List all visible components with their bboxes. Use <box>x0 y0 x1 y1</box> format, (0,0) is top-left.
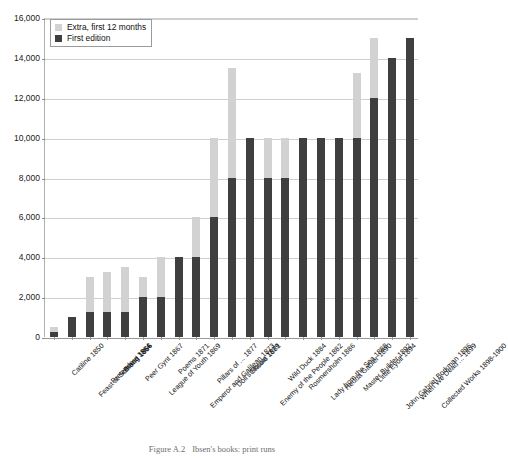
bar-segment-extra <box>103 272 111 312</box>
bar-segment-extra <box>281 138 289 178</box>
bar-segment-extra <box>139 277 147 297</box>
y-tick-label-4000: 4,000 <box>0 253 40 262</box>
legend-item-first-edition: First edition <box>55 34 146 42</box>
bar-slot[interactable] <box>294 19 312 337</box>
bar-slot[interactable] <box>45 19 63 337</box>
x-axis-label: Collected Works 1898-1900 <box>440 342 508 410</box>
bar-segment-extra <box>370 38 378 98</box>
y-tick-label-8000: 8,000 <box>0 174 40 183</box>
y-tick-label-12000: 12,000 <box>0 94 40 103</box>
bar-stack[interactable] <box>86 277 94 337</box>
bar-slot[interactable] <box>116 19 134 337</box>
bar-slot[interactable] <box>187 19 205 337</box>
legend-swatch-extra-icon <box>55 24 62 31</box>
bar-segment-first-edition <box>103 312 111 337</box>
bar-stack[interactable] <box>157 257 165 337</box>
bar-slot[interactable] <box>241 19 259 337</box>
bar-segment-first-edition <box>121 312 129 337</box>
bar-segment-first-edition <box>68 317 76 337</box>
legend-label-extra: Extra, first 12 months <box>67 23 146 31</box>
x-axis-label: Brand 1866 <box>122 342 153 373</box>
bar-slot[interactable] <box>312 19 330 337</box>
bar-segment-extra <box>121 267 129 312</box>
y-tick-label-14000: 14,000 <box>0 54 40 63</box>
bar-stack[interactable] <box>175 257 183 337</box>
bar-segment-first-edition <box>228 178 236 338</box>
bar-stack[interactable] <box>317 138 325 337</box>
legend-item-extra: Extra, first 12 months <box>55 23 146 31</box>
bar-slot[interactable] <box>401 19 419 337</box>
bar-slot[interactable] <box>366 19 384 337</box>
y-tick-mark-0 <box>42 338 45 339</box>
bars-group <box>45 19 418 337</box>
figure-caption: Figure A.2Ibsen's books: print runs <box>0 444 424 454</box>
bar-segment-first-edition <box>370 98 378 337</box>
bar-segment-first-edition <box>210 217 218 337</box>
bar-slot[interactable] <box>259 19 277 337</box>
bar-segment-first-edition <box>353 138 361 337</box>
bar-segment-first-edition <box>406 38 414 337</box>
bar-stack[interactable] <box>388 58 396 337</box>
y-tick-label-0: 0 <box>0 333 40 342</box>
bar-stack[interactable] <box>370 38 378 337</box>
bar-segment-first-edition <box>139 297 147 337</box>
bar-segment-extra <box>86 277 94 312</box>
bar-stack[interactable] <box>192 217 200 337</box>
bar-stack[interactable] <box>281 138 289 337</box>
y-tick-label-6000: 6,000 <box>0 213 40 222</box>
bar-stack[interactable] <box>103 272 111 337</box>
bar-stack[interactable] <box>299 138 307 337</box>
bar-slot[interactable] <box>63 19 81 337</box>
bar-segment-extra <box>157 257 165 297</box>
bar-segment-first-edition <box>299 138 307 337</box>
legend-swatch-first-edition-icon <box>55 35 62 42</box>
y-tick-label-10000: 10,000 <box>0 134 40 143</box>
bar-segment-first-edition <box>246 138 254 337</box>
bar-slot[interactable] <box>170 19 188 337</box>
bar-slot[interactable] <box>383 19 401 337</box>
bar-segment-first-edition <box>175 257 183 337</box>
figure-caption-text: Ibsen's books: print runs <box>192 444 275 454</box>
bar-stack[interactable] <box>246 138 254 337</box>
bar-slot[interactable] <box>205 19 223 337</box>
bar-segment-first-edition <box>157 297 165 337</box>
bar-slot[interactable] <box>81 19 99 337</box>
x-axis-label: Catiline 1850 <box>70 342 105 377</box>
bar-segment-extra <box>228 68 236 178</box>
bar-segment-first-edition <box>281 178 289 338</box>
bar-slot[interactable] <box>277 19 295 337</box>
bar-slot[interactable] <box>152 19 170 337</box>
x-axis-labels: Catiline 1850Feast at Solhoug 1856Preten… <box>44 340 418 440</box>
bar-stack[interactable] <box>68 317 76 337</box>
bar-segment-first-edition <box>86 312 94 337</box>
bar-segment-first-edition <box>264 178 272 338</box>
chart-legend: Extra, first 12 months First edition <box>50 19 152 47</box>
bar-stack[interactable] <box>121 267 129 337</box>
chart-plot-area <box>44 18 418 337</box>
bar-segment-first-edition <box>317 138 325 337</box>
bar-stack[interactable] <box>50 327 58 337</box>
bar-segment-extra <box>192 217 200 257</box>
bar-slot[interactable] <box>348 19 366 337</box>
bar-stack[interactable] <box>210 138 218 337</box>
bar-slot[interactable] <box>223 19 241 337</box>
bar-segment-first-edition <box>192 257 200 337</box>
bar-slot[interactable] <box>98 19 116 337</box>
y-tick-label-2000: 2,000 <box>0 293 40 302</box>
figure-number: Figure A.2 <box>149 444 185 454</box>
bar-segment-extra <box>264 138 272 178</box>
bar-stack[interactable] <box>335 138 343 337</box>
bar-stack[interactable] <box>139 277 147 337</box>
bar-stack[interactable] <box>353 73 361 337</box>
bar-segment-extra <box>353 73 361 138</box>
bar-stack[interactable] <box>264 138 272 337</box>
x-axis-label: When We Dead ... 1899 <box>419 342 478 401</box>
bar-stack[interactable] <box>406 38 414 337</box>
bar-slot[interactable] <box>134 19 152 337</box>
bar-segment-extra <box>210 138 218 218</box>
bar-slot[interactable] <box>330 19 348 337</box>
legend-label-first-edition: First edition <box>67 34 110 42</box>
bar-stack[interactable] <box>228 68 236 337</box>
bar-segment-first-edition <box>335 138 343 337</box>
